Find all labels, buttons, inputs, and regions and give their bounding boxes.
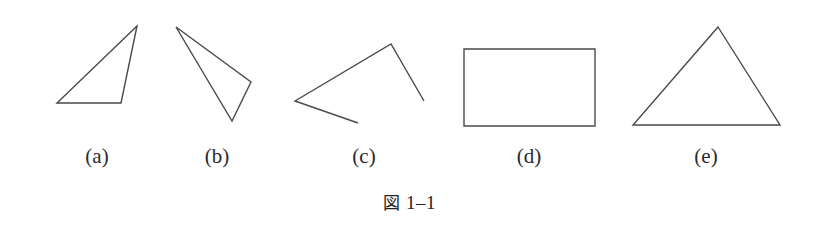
panel-label-a: (a) bbox=[62, 146, 132, 167]
figure-caption-number: 1–1 bbox=[406, 192, 436, 213]
panel-label-b: (b) bbox=[182, 146, 252, 167]
shape-e-triangle bbox=[633, 27, 780, 125]
figure-container: (a) (b) (c) (d) (e) 図 1–1 bbox=[0, 0, 819, 227]
panel-label-d: (d) bbox=[494, 146, 564, 167]
shape-c-open-polyline bbox=[295, 44, 424, 123]
shape-b-triangle bbox=[176, 27, 251, 121]
shape-a-triangle bbox=[57, 26, 137, 103]
figure-caption: 図 1–1 bbox=[0, 192, 819, 214]
figure-caption-mark: 図 bbox=[383, 193, 401, 213]
panel-label-c: (c) bbox=[329, 146, 399, 167]
panel-label-e: (e) bbox=[671, 146, 741, 167]
shape-d-rectangle bbox=[464, 49, 595, 126]
shapes-group bbox=[57, 26, 780, 126]
